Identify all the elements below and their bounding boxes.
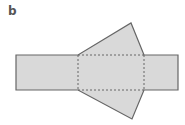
strip-face: [16, 55, 178, 90]
top-triangle-face: [78, 23, 144, 55]
net-faces: [16, 23, 178, 119]
prism-net-diagram: [0, 0, 185, 125]
